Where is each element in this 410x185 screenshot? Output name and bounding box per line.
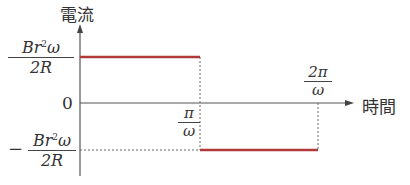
y-tick-positive-denominator: 2R — [28, 58, 54, 77]
x-tick-2pi-over-omega: 2π ω — [304, 64, 332, 99]
x-axis-label: 時間 — [362, 93, 396, 118]
x-tick-pi-over-omega: π ω — [178, 105, 200, 140]
y-axis-label: 電流 — [60, 1, 94, 26]
x-axis-arrow-icon — [345, 100, 354, 106]
y-tick-positive-numerator: Br2ω — [20, 35, 62, 57]
y-tick-negative-sign: − — [8, 138, 23, 159]
x-tick-2pi-denominator: ω — [310, 82, 326, 99]
x-tick-pi-denominator: ω — [181, 123, 197, 140]
y-tick-zero: 0 — [62, 93, 73, 113]
y-tick-positive: Br2ω 2R — [8, 35, 74, 77]
y-tick-negative: Br2ω 2R — [28, 128, 76, 170]
x-tick-2pi-numerator: 2π — [306, 64, 329, 81]
y-tick-negative-numerator: Br2ω — [31, 128, 73, 150]
x-tick-pi-numerator: π — [182, 105, 196, 122]
y-tick-negative-denominator: 2R — [39, 151, 65, 170]
